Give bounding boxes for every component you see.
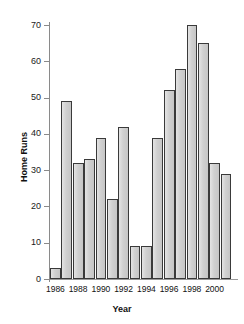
x-tick-label-1986: 1986 — [46, 284, 65, 294]
x-tick-label-1996: 1996 — [160, 284, 179, 294]
x-tick-label-1992: 1992 — [114, 284, 133, 294]
bar-1997 — [175, 69, 186, 280]
bar-1999 — [198, 43, 209, 279]
x-tick-label-1990: 1990 — [91, 284, 110, 294]
bar-1991 — [107, 199, 118, 279]
bar-1990 — [96, 138, 107, 280]
bar-1994 — [141, 246, 152, 279]
bar-1988 — [73, 163, 84, 279]
bar-chart: 010203040506070 Home Runs 19861988199019… — [0, 0, 244, 324]
x-axis-title: Year — [0, 304, 244, 314]
bar-1987 — [61, 101, 72, 279]
x-tick-label-1988: 1988 — [69, 284, 88, 294]
x-axis-tick-labels: 19861988199019921994199619982000 — [0, 284, 244, 296]
bar-1993 — [130, 246, 141, 279]
bar-1998 — [187, 25, 198, 279]
x-tick-label-1994: 1994 — [137, 284, 156, 294]
bar-2000 — [209, 163, 220, 279]
bar-series — [0, 0, 244, 324]
bar-1986 — [50, 268, 61, 279]
bar-1992 — [118, 127, 129, 279]
x-tick-label-2000: 2000 — [205, 284, 224, 294]
bar-2001 — [221, 174, 232, 279]
bar-1996 — [164, 90, 175, 279]
x-tick-label-1998: 1998 — [182, 284, 201, 294]
bar-1989 — [84, 159, 95, 279]
bar-1995 — [152, 138, 163, 280]
